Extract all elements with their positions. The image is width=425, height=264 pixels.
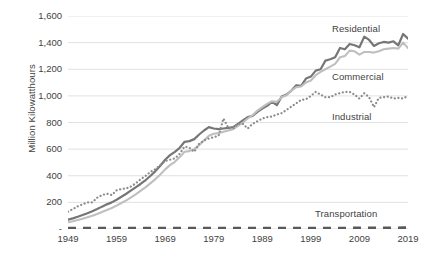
x-tick-label: 1959	[95, 233, 139, 244]
x-tick-label: 1999	[289, 233, 333, 244]
x-tick-label: 2019	[386, 233, 425, 244]
x-tick-label: 1989	[240, 233, 284, 244]
series-label-residential: Residential	[332, 23, 380, 34]
electricity-sales-line-chart: Million Kilowatthours -2004006008001,000…	[0, 0, 425, 264]
series-label-commercial: Commercial	[332, 71, 384, 82]
x-tick-label: 1979	[192, 233, 236, 244]
x-tick-label: 1949	[46, 233, 90, 244]
series-label-industrial: Industrial	[332, 111, 372, 122]
x-tick-label: 2009	[337, 233, 381, 244]
x-axis-tick-labels: 19491959196919791989199920092019	[0, 0, 425, 264]
series-label-transportation: Transportation	[315, 208, 377, 219]
x-tick-label: 1969	[143, 233, 187, 244]
